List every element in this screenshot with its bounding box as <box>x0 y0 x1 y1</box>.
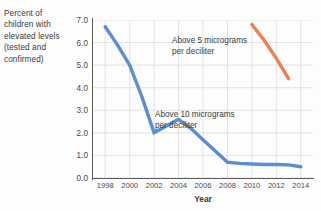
y-tick-label: 4.0 <box>64 83 88 92</box>
x-axis-title: Year <box>93 194 313 204</box>
x-tick-label: 2002 <box>146 181 163 190</box>
x-tick-label: 2000 <box>121 181 138 190</box>
x-tick-label: 2004 <box>170 181 187 190</box>
y-tick-label: 0.0 <box>64 174 88 183</box>
chart-figure: Percent of children with elevated levels… <box>0 0 321 211</box>
y-axis-tick-labels: 7.06.05.04.03.02.01.00.0 <box>62 0 88 211</box>
x-tick-label: 2012 <box>268 181 285 190</box>
y-tick-label: 3.0 <box>64 106 88 115</box>
series-line <box>252 25 289 79</box>
x-tick-label: 2008 <box>219 181 236 190</box>
x-tick-label: 2010 <box>243 181 260 190</box>
x-tick-label: 2006 <box>195 181 212 190</box>
y-axis-line <box>92 18 93 180</box>
y-tick-label: 1.0 <box>64 151 88 160</box>
annotation-above-5: Above 5 micrograms per deciliter <box>172 36 247 57</box>
y-tick-label: 7.0 <box>64 16 88 25</box>
y-tick-label: 2.0 <box>64 128 88 137</box>
x-axis-line <box>92 178 314 179</box>
annotation-above-10: Above 10 micrograms per deciliter <box>155 110 235 131</box>
x-tick-label: 1998 <box>97 181 114 190</box>
y-tick-label: 5.0 <box>64 61 88 70</box>
y-tick-label: 6.0 <box>64 38 88 47</box>
x-tick-label: 2014 <box>292 181 309 190</box>
